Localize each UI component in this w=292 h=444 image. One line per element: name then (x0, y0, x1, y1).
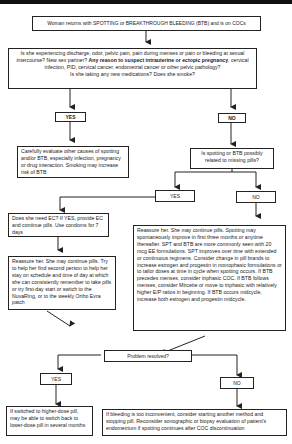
start-box: Woman returns with SPOTTING or BREAKTHRO… (32, 16, 261, 31)
yes-label-2: YES (155, 190, 195, 202)
yes-label-3: YES (40, 373, 72, 385)
evaluate-box: Carefully evaluate other causes of spott… (17, 146, 129, 178)
q1-bold-text: Any reason to suspect intrauterine or ec… (89, 57, 229, 63)
evaluate-text: Carefully evaluate other causes of spott… (21, 148, 121, 175)
reassure-not-missed-text: Reassure her. She may continue pills. Sp… (137, 227, 282, 302)
yes-outcome-box: If switched to higher-dose pill, may be … (6, 406, 93, 436)
reassure-missed-text: Reassure her. She may continue pills. Tr… (12, 258, 111, 305)
missing-pills-question-box: Is spotting or BTB possibly related to m… (190, 148, 274, 169)
yes1-text: YES (65, 114, 75, 121)
no2-text: NO (252, 194, 260, 201)
no-label-3: NO (220, 377, 254, 389)
no-outcome-box: If bleeding is too inconvenient, conside… (102, 409, 287, 436)
yes-label-1: YES (55, 112, 86, 122)
resolved-text: Problem resolved? (127, 353, 169, 360)
start-text: Woman returns with SPOTTING or BREAKTHRO… (47, 20, 246, 27)
yes3-text: YES (51, 376, 61, 383)
problem-resolved-box: Problem resolved? (104, 350, 192, 362)
q1-text-3: Is she taking any new medications? Does … (70, 71, 195, 77)
no-label-2: NO (236, 191, 276, 203)
ec-text: Does she need EC? If YES, provide EC and… (12, 215, 103, 235)
no3-text: NO (233, 380, 241, 387)
missing-pills-text: Is spotting or BTB possibly related to m… (201, 150, 262, 163)
yes-outcome-text: If switched to higher-dose pill, may be … (10, 408, 85, 428)
no-outcome-text: If bleeding is too inconvenient, conside… (106, 411, 266, 431)
reassure-not-missed-box: Reassure her. She may continue pills. Sp… (133, 225, 286, 331)
reassure-missed-pills-box: Reassure her. She may continue pills. Tr… (8, 256, 116, 310)
screening-question-box: Is she experiencing discharge, odor, pel… (8, 48, 257, 89)
ec-box: Does she need EC? If YES, provide EC and… (8, 213, 109, 237)
no-label-1: NO (218, 113, 246, 123)
no1-text: NO (228, 115, 236, 122)
yes2-text: YES (170, 193, 180, 200)
